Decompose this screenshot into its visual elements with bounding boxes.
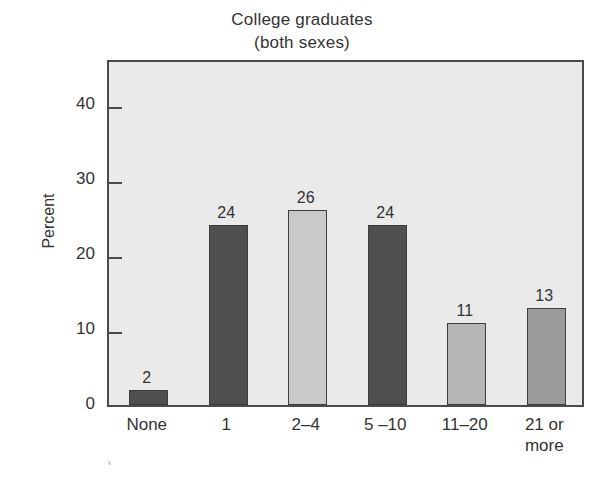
bar-value-label-3: 24	[355, 204, 415, 222]
x-axis-tick-label-2-line-0: 2–4	[292, 415, 320, 434]
y-axis-tick-label-0: 0	[40, 394, 95, 414]
bar-1	[209, 225, 248, 405]
x-axis-tick-label-1-line-0: 1	[222, 415, 231, 434]
bar-value-label-1: 24	[196, 204, 256, 222]
bar-value-label-4: 11	[435, 302, 495, 320]
x-axis-tick-label-3-line-0: 5 –10	[364, 415, 407, 434]
x-axis-tick-label-5-line-0: 21 or	[525, 415, 564, 434]
scan-artifact-speck	[108, 461, 111, 465]
x-axis-tick-label-0-line-0: None	[126, 415, 167, 434]
x-axis-tick-label-2: 2–4	[261, 414, 351, 435]
bar-value-label-0: 2	[117, 369, 177, 387]
y-axis-tick-20	[109, 257, 122, 259]
chart-title-line-1: College graduates	[0, 8, 604, 31]
x-axis-tick-label-5: 21 ormore	[499, 414, 589, 456]
y-axis-tick-40	[109, 107, 122, 109]
x-axis-tick-label-0: None	[102, 414, 192, 435]
chart-title-line-2: (both sexes)	[0, 31, 604, 54]
bar-2	[288, 210, 327, 405]
x-axis-tick-label-5-line-1: more	[499, 435, 589, 456]
bar-4	[447, 323, 486, 406]
y-axis-tick-label-40: 40	[40, 94, 95, 114]
x-axis-tick-label-1: 1	[181, 414, 271, 435]
x-axis-tick-label-4-line-0: 11–20	[442, 415, 488, 434]
plot-area	[107, 60, 584, 407]
x-axis-tick-label-3: 5 –10	[340, 414, 430, 435]
bar-5	[527, 308, 566, 406]
y-axis-tick-label-30: 30	[40, 169, 95, 189]
bar-0	[129, 390, 168, 405]
y-axis-tick-label-20: 20	[40, 244, 95, 264]
bar-value-label-5: 13	[514, 287, 574, 305]
y-axis-tick-30	[109, 182, 122, 184]
x-axis-tick-label-4: 11–20	[420, 414, 510, 435]
y-axis-tick-label-10: 10	[40, 319, 95, 339]
bar-value-label-2: 26	[276, 189, 336, 207]
bar-3	[368, 225, 407, 405]
chart-title: College graduates (both sexes)	[0, 8, 604, 54]
y-axis-tick-10	[109, 332, 122, 334]
